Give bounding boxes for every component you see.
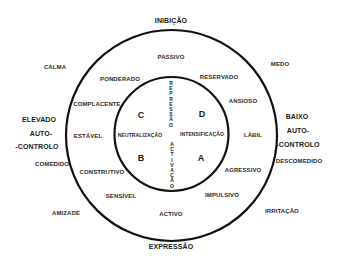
label-estavel: ESTÁVEL (74, 133, 102, 139)
letter: O (168, 123, 174, 128)
label-repressao-vertical: R E P R E S S Ã O (168, 81, 174, 128)
quadrant-c: C (138, 111, 145, 120)
label-neutralizacao: NEUTRALIZAÇÃO (118, 133, 162, 138)
label-intensificacao: INTENSIFICAÇÃO (180, 132, 224, 137)
label-sensivel: SENSÍVEL (106, 193, 136, 199)
quadrant-b: B (138, 154, 145, 163)
axis-right-line1: BAIXO (286, 113, 309, 120)
axis-left-line2: AUTO- (30, 130, 53, 137)
label-activo: ACTIVO (159, 211, 182, 217)
label-ansioso: ANSIOSO (229, 98, 257, 104)
axis-left-line1: ELEVADO (22, 116, 56, 123)
letter: O (169, 184, 175, 189)
quadrant-a: A (198, 154, 205, 163)
label-irritacao: IRRITAÇÃO (265, 208, 299, 214)
label-medo: MEDO (271, 61, 289, 67)
label-construtivo: CONSTRUTIVO (80, 169, 125, 175)
label-impulsivo: IMPULSIVO (205, 192, 239, 198)
label-agressivo: AGRESSIVO (225, 167, 262, 173)
quadrant-d: D (199, 110, 206, 119)
axis-bottom-label: EXPRESSÃO (149, 243, 193, 250)
axis-right-line3: -CONTROLO (276, 141, 319, 148)
label-amizade: AMIZADE (52, 210, 80, 216)
label-complacente: COMPLACENTE (73, 101, 120, 107)
axis-left-line3: -CONTROLO (15, 143, 58, 150)
label-labil: LÁBIL (244, 132, 262, 138)
label-calma: CALMA (44, 64, 66, 70)
label-activacao-vertical: A C T I V A Ç Ã O (169, 142, 175, 189)
label-comedido: COMEDIDO (35, 161, 69, 167)
label-passivo: PASSIVO (158, 54, 185, 60)
axis-right-line2: AUTO- (287, 127, 310, 134)
label-descomedido: DESCOMEDIDO (276, 158, 322, 164)
label-ponderado: PONDERADO (100, 76, 140, 82)
axis-top-label: INIBIÇÃO (155, 17, 187, 24)
label-reservado: RESERVADO (200, 74, 238, 80)
